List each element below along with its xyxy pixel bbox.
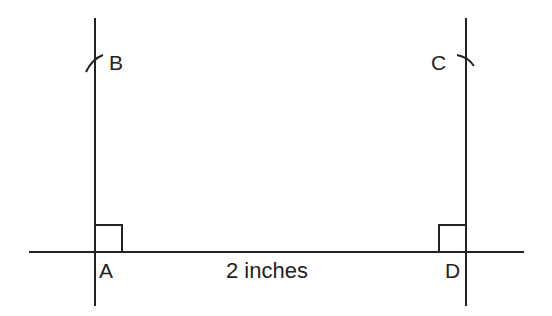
measurement-label: 2 inches (226, 258, 308, 283)
right-angle-mark-a (95, 225, 122, 252)
point-label-d: D (445, 259, 460, 282)
geometry-diagram: B C A D 2 inches (0, 0, 552, 316)
point-label-c: C (431, 51, 446, 74)
point-label-b: B (109, 51, 123, 74)
point-label-a: A (99, 259, 113, 282)
right-angle-mark-d (439, 225, 466, 252)
